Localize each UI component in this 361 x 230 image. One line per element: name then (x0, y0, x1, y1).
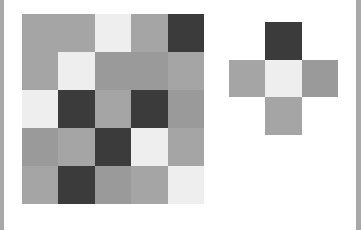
piece-tile[interactable] (265, 60, 301, 98)
board-tile[interactable] (131, 14, 167, 52)
piece-empty-slot (229, 97, 265, 135)
piece-tile[interactable] (265, 97, 301, 135)
board-tile[interactable] (58, 52, 94, 90)
piece-tile[interactable] (265, 22, 301, 60)
board-tile[interactable] (168, 52, 204, 90)
board-tile[interactable] (131, 52, 167, 90)
board-tile[interactable] (95, 14, 131, 52)
left-frame-border (0, 0, 4, 230)
board-tile[interactable] (58, 128, 94, 166)
board-tile[interactable] (22, 14, 58, 52)
board-tile[interactable] (95, 52, 131, 90)
board-tile[interactable] (22, 128, 58, 166)
board-tile[interactable] (95, 90, 131, 128)
board-tile[interactable] (22, 52, 58, 90)
board-tile[interactable] (58, 166, 94, 204)
board-tile[interactable] (22, 90, 58, 128)
piece-empty-slot (302, 97, 338, 135)
cross-piece-preview (229, 22, 338, 135)
board-tile[interactable] (168, 128, 204, 166)
board-tile[interactable] (168, 166, 204, 204)
board-tile[interactable] (131, 128, 167, 166)
right-frame-border (356, 0, 361, 230)
board-tile[interactable] (95, 128, 131, 166)
piece-empty-slot (229, 22, 265, 60)
piece-tile[interactable] (229, 60, 265, 98)
board-tile[interactable] (95, 166, 131, 204)
piece-empty-slot (302, 22, 338, 60)
board-tile[interactable] (22, 166, 58, 204)
board-tile[interactable] (131, 166, 167, 204)
board-tile[interactable] (58, 14, 94, 52)
board-tile[interactable] (58, 90, 94, 128)
board-tile[interactable] (168, 90, 204, 128)
piece-tile[interactable] (302, 60, 338, 98)
board-tile[interactable] (168, 14, 204, 52)
board-tile[interactable] (131, 90, 167, 128)
game-board-grid (22, 14, 204, 204)
